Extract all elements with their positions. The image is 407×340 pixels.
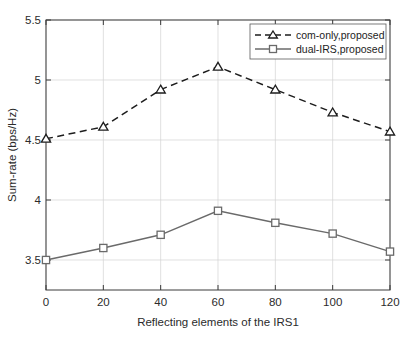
x-tick-label: 80 bbox=[269, 296, 282, 308]
x-tick-label: 120 bbox=[380, 296, 399, 308]
square-marker-icon bbox=[270, 46, 277, 53]
line-chart: 3.5 4 4.5 5 5.5 0 20 40 60 80 100 120 Re… bbox=[0, 0, 407, 340]
x-axis-title: Reflecting elements of the IRS1 bbox=[137, 316, 299, 328]
y-axis-title: Sum-rate (bps/Hz) bbox=[6, 108, 18, 202]
y-tick-label: 4.5 bbox=[25, 134, 41, 146]
y-tick-label: 5.5 bbox=[25, 14, 41, 26]
y-tick-label: 4 bbox=[35, 194, 42, 206]
x-tick-label: 60 bbox=[212, 296, 225, 308]
data-point-square-marker bbox=[157, 231, 164, 238]
data-point-square-marker bbox=[100, 244, 107, 251]
legend-label: com-only,proposed bbox=[296, 29, 385, 41]
data-point-triangle-marker bbox=[328, 108, 337, 116]
data-point-square-marker bbox=[386, 248, 393, 255]
data-point-triangle-marker bbox=[213, 62, 222, 70]
data-point-triangle-marker bbox=[99, 122, 108, 130]
y-tick-label: 3.5 bbox=[25, 254, 41, 266]
x-tick-label: 0 bbox=[43, 296, 49, 308]
chart-figure: 3.5 4 4.5 5 5.5 0 20 40 60 80 100 120 Re… bbox=[0, 0, 407, 340]
legend[interactable]: com-only,proposed dual-IRS,proposed bbox=[250, 24, 386, 59]
x-tick-label: 40 bbox=[154, 296, 167, 308]
y-tick-label: 5 bbox=[35, 74, 41, 86]
x-tick-label: 20 bbox=[97, 296, 110, 308]
data-point-square-marker bbox=[214, 207, 221, 214]
data-point-square-marker bbox=[42, 256, 49, 263]
x-tick-label: 100 bbox=[323, 296, 342, 308]
y-axis-tick-labels: 3.5 4 4.5 5 5.5 bbox=[25, 14, 42, 266]
data-point-square-marker bbox=[329, 230, 336, 237]
x-axis-tick-labels: 0 20 40 60 80 100 120 bbox=[43, 296, 400, 308]
legend-label: dual-IRS,proposed bbox=[296, 43, 384, 55]
data-point-square-marker bbox=[272, 219, 279, 226]
